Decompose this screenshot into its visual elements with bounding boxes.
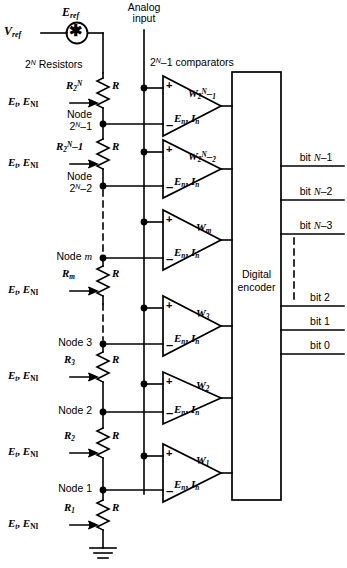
- noise-label-6: En, In: [174, 479, 199, 492]
- digital-encoder-label: Digital encoder: [232, 268, 281, 293]
- resistor-zigzag-3: [97, 266, 109, 296]
- analog-input-line2: input: [133, 12, 156, 24]
- node-label-4: Node 3: [16, 337, 92, 348]
- comparator-output-wires: [221, 106, 232, 473]
- bit-label-3: bit 2: [296, 292, 344, 303]
- tap-label-4: Et, ENI: [8, 370, 38, 383]
- bit-label-2: bit N–3: [288, 220, 344, 231]
- comparator-output-label-5: W2: [196, 380, 209, 393]
- node-label-1: Node2N–1: [26, 108, 92, 132]
- resistor-zigzag-1: [97, 78, 109, 108]
- bit-label-5: bit 0: [296, 340, 344, 351]
- resistor-value-4: R: [112, 354, 119, 366]
- comparator-plus-1: +: [166, 80, 172, 92]
- node-label-6: Node 1: [16, 483, 92, 494]
- bit-label-1: bit N–2: [288, 186, 344, 197]
- noise-label-5: En, In: [174, 404, 199, 417]
- comparator-minus-2: –: [166, 180, 173, 194]
- eref-sub: ref: [70, 11, 79, 20]
- resistor-value-3: R: [112, 268, 119, 280]
- vref-label: Vref: [4, 25, 21, 39]
- ground-icon: [90, 548, 116, 558]
- comparator-output-label-4: W3: [196, 308, 209, 321]
- comparator-plus-4: +: [166, 300, 172, 312]
- encoder-line1: Digital: [242, 268, 271, 280]
- resistor-label-3: Rm: [62, 268, 75, 281]
- resistor-zigzag-2: [97, 139, 109, 169]
- comparator-minus-4: –: [166, 338, 173, 352]
- tap-label-5: Et, ENI: [8, 446, 38, 459]
- resistor-value-5: R: [112, 430, 119, 442]
- comparator-minus-6: –: [166, 484, 173, 498]
- resistor-label-5: R2: [64, 430, 75, 443]
- resistor-value-6: R: [112, 502, 119, 514]
- resistor-value-2: R: [112, 141, 119, 153]
- resistor-label-4: R3: [64, 354, 75, 367]
- comparator-output-label-2: W2N–2: [188, 151, 216, 164]
- comparator-plus-6: +: [166, 448, 172, 460]
- comparator-plus-2: +: [166, 144, 172, 156]
- comparator-output-label-3: Wm: [196, 222, 211, 235]
- resistor-label-1: R2N: [66, 80, 82, 93]
- tap-label-2: Et, ENI: [8, 157, 38, 170]
- comparator-plus-5: +: [166, 376, 172, 388]
- resistor-label-6: R1: [64, 502, 75, 515]
- analog-input-label: Analog input: [112, 2, 176, 24]
- noise-label-3: En, In: [174, 247, 199, 260]
- encoder-line2: encoder: [238, 281, 276, 293]
- resistor-zigzag-5: [97, 428, 109, 458]
- comparator-output-label-1: W2N–1: [188, 88, 216, 101]
- comparator-minus-1: –: [166, 118, 173, 132]
- node-label-3: Node m: [16, 251, 92, 262]
- comparator-output-label-6: W1: [196, 455, 209, 468]
- resistor-label-2: R2N–1: [56, 141, 83, 154]
- tap-arrows: [70, 100, 97, 529]
- node-label-2: Node2N–2: [26, 170, 92, 194]
- resistor-count-caption: 2N Resistors: [25, 59, 83, 70]
- eref-label: Eref: [62, 6, 79, 20]
- source-asterisk-icon: ✱: [69, 23, 82, 40]
- plus-input-wires: [144, 88, 163, 456]
- vref-sub: ref: [12, 30, 21, 39]
- comparator-symbols: [163, 76, 221, 502]
- node-label-5: Node 2: [16, 405, 92, 416]
- resistor-zigzag-6: [97, 500, 109, 530]
- comparator-plus-3: +: [166, 214, 172, 226]
- noise-label-1: En, In: [174, 113, 199, 126]
- comparators-caption: 2N–1 comparators: [150, 57, 234, 68]
- resistor-zigzag-4: [97, 352, 109, 382]
- bit-label-4: bit 1: [296, 316, 344, 327]
- resistor-value-1: R: [112, 80, 119, 92]
- figure-canvas: Vref Eref ✱ 2N Resistors Analog input 2N…: [0, 0, 347, 568]
- comparator-minus-5: –: [166, 406, 173, 420]
- tap-label-3: Et, ENI: [8, 284, 38, 297]
- bit-label-0: bit N–1: [288, 152, 344, 163]
- comparator-minus-3: –: [166, 252, 173, 266]
- tap-label-6: Et, ENI: [8, 518, 38, 531]
- noise-label-2: En, In: [174, 176, 199, 189]
- noise-label-4: En, In: [174, 333, 199, 346]
